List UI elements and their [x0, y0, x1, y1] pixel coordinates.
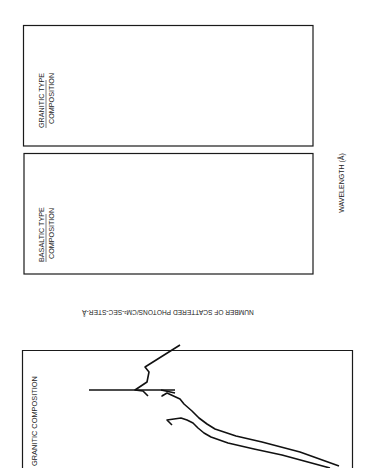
granitic-type-panel: GRANITIC TYPE COMPOSITION	[24, 26, 314, 147]
svg-text:WAVELENGTH (Å): WAVELENGTH (Å)	[337, 153, 346, 213]
title-line-2: COMPOSITION	[47, 208, 56, 259]
count-axis-label: NUMBER OF SCATTERED PHOTONS/CM²-SEC-STER…	[82, 309, 254, 317]
continuum-curve-shape	[167, 418, 330, 468]
panel-frame	[24, 154, 313, 275]
continuum-curve-mid	[135, 345, 180, 396]
panel-title: BASALTIC TYPE COMPOSITION	[37, 207, 56, 262]
title-line-1: BASALTIC TYPE	[37, 207, 46, 262]
title-line-2: COMPOSITION	[47, 73, 56, 124]
svg-text:NUMBER OF SCATTERED PHOTONS/CM: NUMBER OF SCATTERED PHOTONS/CM²-SEC-STER…	[82, 309, 254, 317]
wavelength-axis-label: WAVELENGTH (Å)	[337, 153, 346, 213]
continuum-curve	[162, 393, 339, 466]
panel-frame	[24, 26, 314, 147]
basaltic-type-panel: BASALTIC TYPE COMPOSITION	[24, 154, 313, 275]
figure: GRANITIC TYPE COMPOSITION BASALTIC TYPE …	[0, 0, 385, 468]
svg-text:GRANITIC COMPOSITION: GRANITIC COMPOSITION	[30, 376, 39, 466]
panel-title: GRANITIC TYPE COMPOSITION	[37, 73, 56, 128]
panel-title: GRANITIC COMPOSITION	[30, 376, 39, 466]
granitic-composition-panel: GRANITIC COMPOSITION	[23, 345, 353, 468]
panel-frame	[23, 351, 353, 468]
title-line-1: GRANITIC TYPE	[37, 73, 46, 128]
